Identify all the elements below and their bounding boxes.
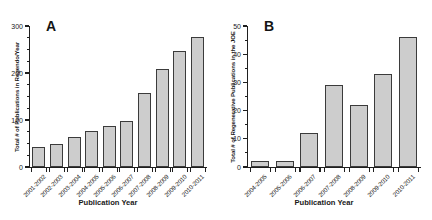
y-axis-minor-tick <box>27 143 29 144</box>
x-axis-tick <box>205 168 206 172</box>
x-axis-tick <box>275 168 276 172</box>
x-axis-tick-label: 2004-2005 <box>242 173 268 199</box>
figure-two-panel-bar-charts: Total # of Publications in Regendo/Year … <box>0 0 432 220</box>
x-axis-tick <box>64 168 65 172</box>
x-axis-tick <box>299 168 300 172</box>
x-axis-tick <box>155 168 156 172</box>
panel-b-x-axis-title: Publication Year <box>216 198 432 207</box>
x-axis-tick <box>250 168 251 172</box>
x-axis-tick <box>67 168 68 172</box>
x-axis-tick <box>134 168 135 172</box>
y-axis-minor-tick <box>245 40 247 41</box>
bar <box>325 85 343 167</box>
y-axis-tick <box>243 82 247 83</box>
y-axis-minor-tick <box>27 131 29 132</box>
y-axis-tick-label: 40 <box>220 51 241 58</box>
bar <box>103 126 116 167</box>
y-axis-tick-label: 100 <box>2 117 23 124</box>
bar <box>173 51 186 167</box>
y-axis-tick-label: 300 <box>2 23 23 30</box>
bar <box>32 147 45 167</box>
x-axis-tick <box>324 168 325 172</box>
y-axis-tick-label: 10 <box>220 135 241 142</box>
x-axis-tick <box>102 168 103 172</box>
x-axis-tick <box>117 168 118 172</box>
y-axis-tick <box>25 119 29 120</box>
x-axis-tick-label: 2007-2008 <box>316 173 342 199</box>
y-axis-minor-tick <box>27 155 29 156</box>
x-axis-tick <box>369 168 370 172</box>
y-axis-minor-tick <box>27 96 29 97</box>
y-axis-tick <box>243 138 247 139</box>
x-axis-tick <box>31 168 32 172</box>
x-axis-tick <box>373 168 374 172</box>
x-axis-tick <box>393 168 394 172</box>
x-axis-line <box>247 167 421 168</box>
y-axis-minor-tick <box>27 108 29 109</box>
y-axis-tick-label: 0 <box>220 164 241 171</box>
y-axis-tick-label: 200 <box>2 70 23 77</box>
y-axis-minor-tick <box>27 84 29 85</box>
y-axis-minor-tick <box>27 49 29 50</box>
bar <box>276 161 294 167</box>
x-axis-tick <box>49 168 50 172</box>
x-axis-tick <box>119 168 120 172</box>
x-axis-tick <box>172 168 173 172</box>
x-axis-tick <box>398 168 399 172</box>
y-axis-tick <box>25 166 29 167</box>
y-axis-line <box>29 26 30 168</box>
y-axis-tick <box>243 110 247 111</box>
bar <box>50 144 63 167</box>
x-axis-tick <box>270 168 271 172</box>
bar <box>374 74 392 167</box>
y-axis-tick <box>243 54 247 55</box>
bar <box>120 121 133 167</box>
y-axis-minor-tick <box>245 124 247 125</box>
y-axis-tick <box>243 166 247 167</box>
y-axis-tick-label: 20 <box>220 107 241 114</box>
panel-b-y-axis-title: Total # of Regenerative Publications in … <box>227 22 238 172</box>
y-axis-tick-label: 30 <box>220 79 241 86</box>
bar <box>251 161 269 167</box>
x-axis-tick <box>344 168 345 172</box>
x-axis-tick-label: 2009-2010 <box>365 173 391 199</box>
x-axis-tick-label: 2010-2011 <box>389 173 415 199</box>
bar <box>156 69 169 167</box>
x-axis-tick <box>152 168 153 172</box>
x-axis-tick <box>319 168 320 172</box>
bar <box>191 37 204 167</box>
panel-a-x-axis-title: Publication Year <box>0 198 216 207</box>
x-axis-tick-label: 2005-2006 <box>267 173 293 199</box>
y-axis-tick-label: 50 <box>220 23 241 30</box>
bar <box>85 131 98 167</box>
x-axis-tick <box>170 168 171 172</box>
x-axis-tick <box>99 168 100 172</box>
y-axis-minor-tick <box>245 68 247 69</box>
bar <box>68 137 81 167</box>
x-axis-tick <box>190 168 191 172</box>
bar <box>300 133 318 167</box>
y-axis-tick <box>243 25 247 26</box>
bar <box>138 93 151 167</box>
x-axis-tick <box>46 168 47 172</box>
y-axis-tick <box>25 72 29 73</box>
y-axis-tick <box>25 25 29 26</box>
y-axis-minor-tick <box>245 96 247 97</box>
x-axis-tick <box>84 168 85 172</box>
y-axis-minor-tick <box>27 61 29 62</box>
x-axis-tick <box>187 168 188 172</box>
panel-a-y-axis-title: Total # of Publications in Regendo/Year <box>11 22 22 172</box>
x-axis-tick <box>349 168 350 172</box>
panel-b: Total # of Regenerative Publications in … <box>216 0 432 220</box>
x-axis-tick-label: 2006-2007 <box>291 173 317 199</box>
y-axis-line <box>247 26 248 168</box>
x-axis-tick <box>418 168 419 172</box>
panel-a: Total # of Publications in Regendo/Year … <box>0 0 216 220</box>
x-axis-tick-label: 2008-2009 <box>340 173 366 199</box>
y-axis-minor-tick <box>245 152 247 153</box>
x-axis-tick <box>295 168 296 172</box>
x-axis-tick <box>82 168 83 172</box>
x-axis-tick <box>137 168 138 172</box>
y-axis-minor-tick <box>27 37 29 38</box>
bar <box>399 37 417 167</box>
